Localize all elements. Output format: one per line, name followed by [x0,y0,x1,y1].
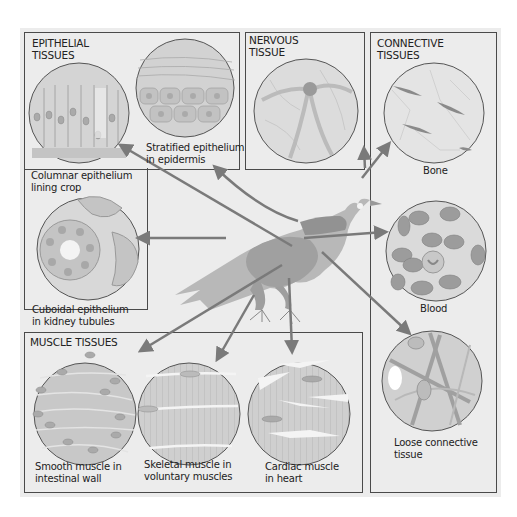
epithelial-title: EPITHELIAL TISSUES [32,37,89,61]
stratified-epithelium-circle [136,39,235,137]
blood-circle [386,201,486,301]
cuboidal-epithelium-circle [37,196,139,300]
caption-columnar: Columnar epithelium lining crop [31,170,132,194]
bone-circle [384,63,484,163]
caption-bone: Bone [423,165,448,177]
nervous-tissue-circle [254,59,358,163]
cardiac-muscle-circle [248,360,350,465]
muscle-title: MUSCLE TISSUES [30,336,118,348]
smooth-muscle-circle [33,352,136,465]
connective-title: CONNECTIVE TISSUES [377,37,444,61]
columnar-epithelium-circle [29,63,129,163]
caption-smooth-muscle: Smooth muscle in intestinal wall [35,461,122,485]
skeletal-muscle-circle [138,363,240,465]
caption-skeletal-muscle: Skeletal muscle in voluntary muscles [144,459,232,483]
caption-loose-connective: Loose connective tissue [394,437,478,461]
nervous-title: NERVOUS TISSUE [249,34,298,58]
caption-cuboidal: Cuboidal epithelium in kidney tubules [32,304,129,328]
caption-stratified: Stratified epithelium in epidermis [146,142,244,166]
loose-connective-circle [382,331,482,431]
caption-blood: Blood [420,303,447,315]
caption-cardiac-muscle: Cardiac muscle in heart [265,461,339,485]
bird-figure [175,199,382,324]
